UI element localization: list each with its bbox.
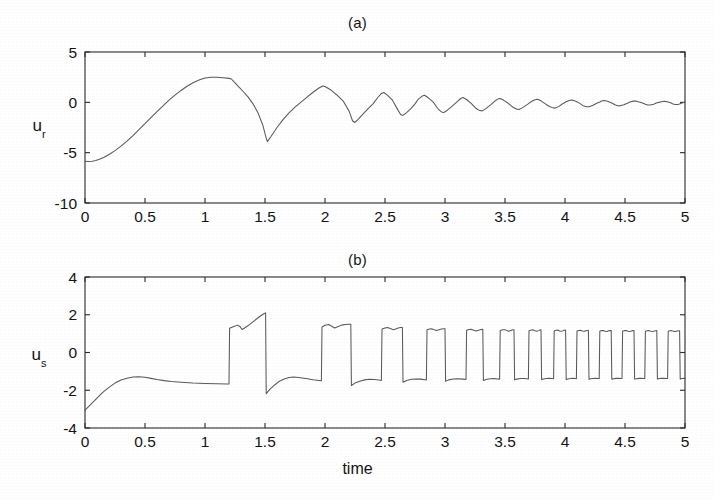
- subplot-b-xticklabel: 0: [81, 433, 90, 450]
- subplot-b-xticklabel: 1: [201, 433, 210, 450]
- x-axis-label: time: [0, 460, 715, 478]
- subplot-b-xticklabel: 2.5: [374, 433, 396, 450]
- subplot-panel-a: (a) 00.511.522.533.544.55-10-505 ur: [0, 0, 715, 250]
- subplot-a-xticklabel: 1: [201, 208, 210, 225]
- subplot-b-xticklabel: 3.5: [494, 433, 516, 450]
- subplot-b-ylabel: us: [22, 345, 56, 366]
- subplot-a-yticklabel: 5: [68, 44, 77, 61]
- subplot-b-xticklabel: 2: [321, 433, 330, 450]
- subplot-b-axes-frame: [85, 277, 685, 428]
- subplot-b-xticklabel: 5: [681, 433, 690, 450]
- subplot-a-data-line: [85, 77, 685, 161]
- subplot-a-xticklabel: 3: [441, 208, 450, 225]
- subplot-a-xticklabel: 4: [561, 208, 570, 225]
- subplot-b-data-line: [85, 313, 685, 410]
- subplot-b-xticklabel: 0.5: [134, 433, 156, 450]
- subplot-a-xticklabel: 5: [681, 208, 690, 225]
- subplot-b-yticklabel: 2: [68, 306, 77, 323]
- subplot-b-xticklabel: 1.5: [254, 433, 276, 450]
- ylabel-a-subscript: r: [42, 128, 46, 140]
- subplot-a-xticklabel: 2.5: [374, 208, 396, 225]
- figure-container: (a) 00.511.522.533.544.55-10-505 ur (b) …: [0, 0, 715, 499]
- subplot-a-xticklabel: 0: [81, 208, 90, 225]
- ylabel-b-base: u: [32, 345, 41, 364]
- subplot-a-yticklabel: -10: [55, 195, 78, 212]
- ylabel-a-base: u: [32, 116, 41, 135]
- subplot-a-xticklabel: 0.5: [134, 208, 156, 225]
- ylabel-b-subscript: s: [41, 357, 47, 369]
- subplot-b-xticklabel: 3: [441, 433, 450, 450]
- subplot-a-ylabel: ur: [22, 116, 56, 137]
- subplot-b-xticklabel: 4: [561, 433, 570, 450]
- subplot-a-xticklabel: 2: [321, 208, 330, 225]
- subplot-b-xticklabel: 4.5: [614, 433, 636, 450]
- subplot-a-axes-frame: [85, 52, 685, 203]
- subplot-a-plot: 00.511.522.533.544.55-10-505: [0, 0, 715, 250]
- subplot-a-xticklabel: 3.5: [494, 208, 516, 225]
- subplot-b-yticklabel: 4: [68, 269, 77, 286]
- subplot-b-yticklabel: -2: [63, 382, 77, 399]
- subplot-a-yticklabel: 0: [68, 94, 77, 111]
- subplot-a-xticklabel: 1.5: [254, 208, 276, 225]
- subplot-b-yticklabel: -4: [63, 420, 77, 437]
- subplot-a-xticklabel: 4.5: [614, 208, 636, 225]
- subplot-a-yticklabel: -5: [63, 144, 77, 161]
- subplot-b-yticklabel: 0: [68, 344, 77, 361]
